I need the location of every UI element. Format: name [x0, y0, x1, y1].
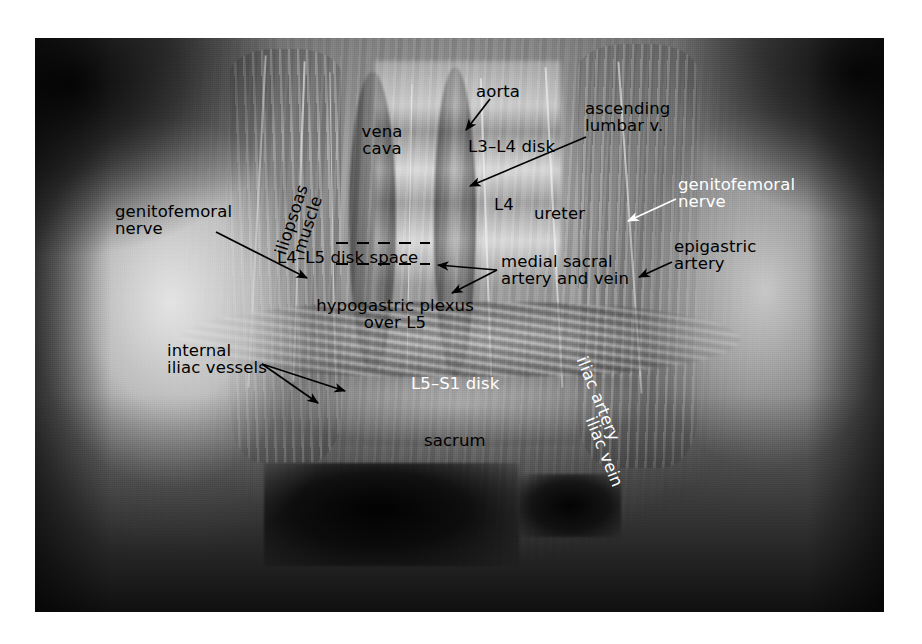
label-l3-l4-disk: L3–L4 disk	[468, 138, 555, 155]
label-hypogastric-plexus-over-l5: hypogastric plexus over L5	[316, 297, 474, 332]
label-l5-s1-disk: L5–S1 disk	[411, 375, 499, 392]
label-sacrum: sacrum	[424, 432, 486, 449]
label-ureter: ureter	[534, 205, 585, 222]
annotation-label-layer: aortavena cavaL3–L4 diskascending lumbar…	[0, 0, 922, 644]
label-vena-cava: vena cava	[362, 123, 403, 158]
label-internal-iliac-vessels: internal iliac vessels	[167, 342, 267, 377]
label-genitofemoral-nerve-left: genitofemoral nerve	[115, 203, 232, 238]
label-medial-sacral-artery-vein: medial sacral artery and vein	[501, 253, 629, 288]
label-l4: L4	[494, 196, 514, 213]
label-genitofemoral-nerve-right: genitofemoral nerve	[678, 176, 795, 211]
label-aorta: aorta	[476, 83, 520, 100]
label-ascending-lumbar-vein: ascending lumbar v.	[585, 100, 670, 135]
figure-page: aortavena cavaL3–L4 diskascending lumbar…	[0, 0, 922, 644]
label-epigastric-artery: epigastric artery	[674, 238, 756, 273]
label-l4-l5-disk-space: L4–L5 disk space	[277, 249, 418, 266]
